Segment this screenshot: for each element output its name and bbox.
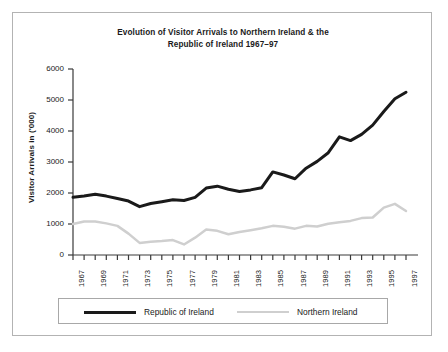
series-line-republic-of-ireland xyxy=(73,92,406,206)
y-axis-tick-label: 5000 xyxy=(32,95,64,104)
series-group xyxy=(73,92,406,244)
y-axis-tick-label: 0 xyxy=(32,250,64,259)
legend-entry: Republic of Ireland xyxy=(84,299,214,325)
legend-label: Republic of Ireland xyxy=(144,307,214,317)
x-axis-tick-label: 1991 xyxy=(343,270,352,287)
y-axis-tick-label: 6000 xyxy=(32,64,64,73)
chart-plot-area xyxy=(13,13,433,337)
x-axis-tick-label: 1985 xyxy=(276,270,285,287)
x-axis-tick-label: 1997 xyxy=(410,270,419,287)
legend-swatch-ni xyxy=(237,311,289,313)
x-axis-tick-label: 1973 xyxy=(143,270,152,287)
y-axis-tick-label: 4000 xyxy=(32,126,64,135)
y-axis-tick-label: 1000 xyxy=(32,219,64,228)
x-axis-tick-label: 1993 xyxy=(365,270,374,287)
x-axis-tick-label: 1981 xyxy=(232,270,241,287)
x-axis-tick-label: 1969 xyxy=(99,270,108,287)
x-axis-tick-label: 1983 xyxy=(254,270,263,287)
series-line-northern-ireland xyxy=(73,204,406,245)
x-axis-tick-label: 1975 xyxy=(165,270,174,287)
legend-entry: Northern Ireland xyxy=(237,299,358,325)
x-axis-tick-label: 1977 xyxy=(188,270,197,287)
y-axis-tick-label: 2000 xyxy=(32,188,64,197)
chart-legend: Republic of IrelandNorthern Ireland xyxy=(58,298,388,324)
legend-swatch-roi xyxy=(84,311,136,314)
chart-figure-frame: Evolution of Visitor Arrivals to Norther… xyxy=(12,12,432,336)
legend-label: Northern Ireland xyxy=(297,307,358,317)
y-axis-tick-label: 3000 xyxy=(32,157,64,166)
x-axis-tick-label: 1995 xyxy=(387,270,396,287)
x-axis-tick-label: 1989 xyxy=(321,270,330,287)
x-axis-tick-label: 1979 xyxy=(210,270,219,287)
x-axis-tick-label: 1971 xyxy=(121,270,130,287)
x-axis-tick-label: 1967 xyxy=(77,270,86,287)
x-axis-tick-label: 1987 xyxy=(299,270,308,287)
